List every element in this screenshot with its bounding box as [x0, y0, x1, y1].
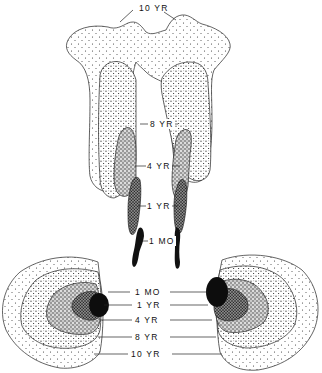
label-1yr-upper: 1 YR	[146, 201, 172, 211]
label-10yr-lower: 10 YR	[130, 349, 161, 359]
label-1mo-lower: 1 MO	[134, 287, 162, 297]
growth-diagram	[0, 0, 322, 373]
upper-structure	[66, 15, 230, 269]
label-8yr-lower: 8 YR	[134, 332, 160, 342]
label-8yr-upper: 8 YR	[149, 119, 175, 129]
label-10yr-upper: 10 YR	[138, 3, 169, 13]
label-4yr-lower: 4 YR	[134, 315, 160, 325]
lower-left-structure	[2, 257, 109, 368]
ring-1mo-right	[206, 277, 228, 307]
region-1mo-right	[175, 228, 181, 269]
lower-right-structure	[206, 255, 318, 370]
label-1mo-upper: 1 MO	[148, 236, 176, 246]
label-4yr-upper: 4 YR	[146, 161, 172, 171]
label-1yr-lower: 1 YR	[136, 300, 162, 310]
